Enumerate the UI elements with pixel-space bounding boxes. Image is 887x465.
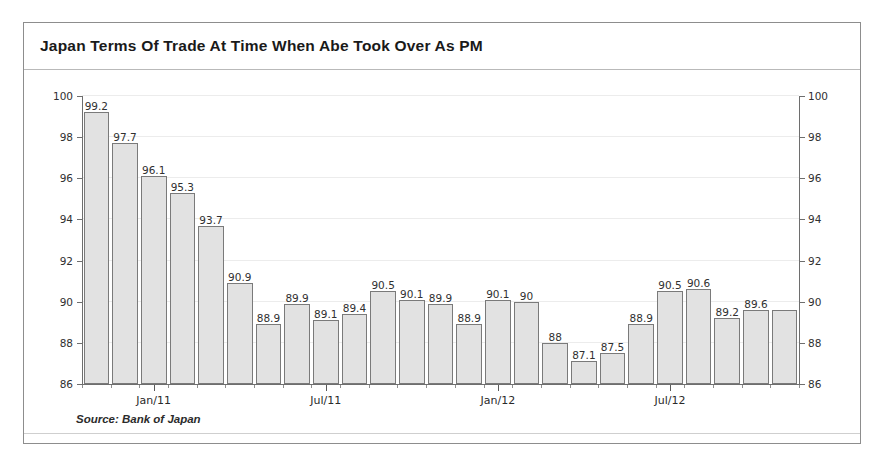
x-tick-minor — [570, 385, 571, 388]
bar-slot — [770, 96, 799, 384]
x-tick-minor — [627, 385, 628, 388]
y-axis-left-label: 94 — [60, 213, 73, 225]
y-tick-right — [800, 178, 805, 179]
bar-value-label: 89.1 — [314, 308, 337, 320]
x-axis-labels: Jan/11Jul/11Jan/12Jul/12 — [82, 394, 800, 410]
y-tick-left — [77, 261, 82, 262]
bar[interactable]: 90.6 — [686, 289, 712, 384]
bar[interactable]: 89.9 — [428, 304, 454, 384]
bar-value-label: 90.6 — [687, 277, 710, 289]
bar-value-label: 90.1 — [486, 288, 509, 300]
bar[interactable]: 87.1 — [571, 361, 597, 384]
bar[interactable]: 89.6 — [743, 310, 769, 384]
bar-value-label: 89.9 — [285, 292, 308, 304]
bar-slot: 90.1 — [484, 96, 513, 384]
bar[interactable]: 90 — [514, 302, 540, 384]
bar[interactable]: 90.5 — [370, 291, 396, 384]
bar[interactable]: 90.5 — [657, 291, 683, 384]
bar-value-label: 96.1 — [142, 164, 165, 176]
bar-value-label: 90.1 — [400, 288, 423, 300]
y-axis-right-label: 88 — [808, 337, 821, 349]
bar[interactable]: 96.1 — [141, 176, 167, 384]
bar-slot: 89.2 — [713, 96, 742, 384]
y-axis-right-label: 86 — [808, 378, 821, 390]
y-axis-left-label: 98 — [60, 131, 73, 143]
bar[interactable]: 89.4 — [342, 314, 368, 384]
bar[interactable]: 90.1 — [399, 300, 425, 384]
bar-slot: 87.1 — [570, 96, 599, 384]
x-tick-minor — [512, 385, 513, 388]
x-tick-minor — [455, 385, 456, 388]
bar-slot: 90.5 — [656, 96, 685, 384]
x-tick-minor — [283, 385, 284, 388]
bar[interactable]: 88.9 — [256, 324, 282, 384]
bar-slot: 90.9 — [225, 96, 254, 384]
y-tick-right — [800, 343, 805, 344]
bar-slot: 89.6 — [742, 96, 771, 384]
bar[interactable]: 90.1 — [485, 300, 511, 384]
bar-slot: 88 — [541, 96, 570, 384]
y-tick-left — [77, 343, 82, 344]
bar-slot: 89.4 — [340, 96, 369, 384]
y-axis-left-label: 86 — [60, 378, 73, 390]
y-tick-left — [77, 219, 82, 220]
y-axis-left-label: 92 — [60, 255, 73, 267]
bar-value-label: 95.3 — [171, 181, 194, 193]
bar[interactable]: 88.9 — [456, 324, 482, 384]
y-axis-right-label: 98 — [808, 131, 821, 143]
bar[interactable]: 89.9 — [284, 304, 310, 384]
bar-value-label: 90.9 — [228, 271, 251, 283]
bar-slot: 89.1 — [311, 96, 340, 384]
bar-slot: 90.5 — [369, 96, 398, 384]
bar[interactable]: 89.1 — [313, 320, 339, 384]
bar-value-label: 88.9 — [257, 312, 280, 324]
bar[interactable]: 88.9 — [628, 324, 654, 384]
bar-value-label: 89.2 — [716, 306, 739, 318]
source-divider — [24, 433, 860, 434]
x-tick-minor — [340, 385, 341, 388]
bar[interactable]: 87.5 — [600, 353, 626, 384]
x-tick-minor — [742, 385, 743, 388]
y-axis-right-label: 92 — [808, 255, 821, 267]
x-tick-minor — [139, 385, 140, 388]
bar[interactable]: 88 — [542, 343, 568, 384]
y-axis-right-label: 90 — [808, 296, 821, 308]
bar[interactable]: 89.2 — [714, 318, 740, 384]
x-axis-label: Jul/11 — [310, 394, 341, 407]
bar-value-label: 93.7 — [199, 214, 222, 226]
bar-slot: 89.9 — [283, 96, 312, 384]
x-tick-minor — [770, 385, 771, 388]
bar-slot: 89.9 — [426, 96, 455, 384]
bar-value-label: 89.6 — [744, 298, 767, 310]
y-axis-left-label: 96 — [60, 172, 73, 184]
x-tick-major — [498, 385, 499, 391]
x-tick-minor — [225, 385, 226, 388]
bar-value-label: 90.5 — [658, 279, 681, 291]
x-tick-minor — [254, 385, 255, 388]
bar-slot: 97.7 — [111, 96, 140, 384]
x-tick-minor — [397, 385, 398, 388]
y-tick-right — [800, 302, 805, 303]
x-tick-minor — [311, 385, 312, 388]
bar[interactable]: 99.2 — [84, 112, 110, 384]
bar-value-label: 88.9 — [457, 312, 480, 324]
y-tick-left — [77, 178, 82, 179]
x-tick-minor — [426, 385, 427, 388]
bar-value-label: 90.5 — [371, 279, 394, 291]
bar-value-label: 88.9 — [630, 312, 653, 324]
bar[interactable]: 93.7 — [198, 226, 224, 384]
x-tick-major — [154, 385, 155, 391]
bar[interactable] — [772, 310, 798, 384]
bar[interactable]: 95.3 — [170, 193, 196, 384]
x-tick-minor — [369, 385, 370, 388]
bar[interactable]: 90.9 — [227, 283, 253, 384]
y-axis-right-label: 100 — [808, 90, 828, 102]
x-tick-minor — [111, 385, 112, 388]
source-note: Source: Bank of Japan — [76, 413, 201, 425]
y-axis-right-label: 94 — [808, 213, 821, 225]
bar[interactable]: 97.7 — [112, 143, 138, 384]
x-tick-major — [326, 385, 327, 391]
chart-title: Japan Terms Of Trade At Time When Abe To… — [40, 37, 483, 55]
x-tick-minor — [684, 385, 685, 388]
bar-series: 99.297.796.195.393.790.988.989.989.189.4… — [82, 96, 799, 384]
